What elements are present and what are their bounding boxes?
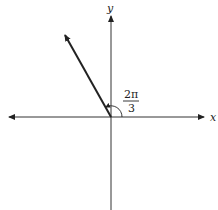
angle-diagram: x y 2π 3 xyxy=(0,0,218,210)
y-axis-label: y xyxy=(106,2,114,15)
x-axis-label: x xyxy=(210,111,217,124)
angle-numerator: 2π xyxy=(124,88,138,101)
angle-label: 2π 3 xyxy=(123,88,139,115)
angle-denominator: 3 xyxy=(128,102,135,115)
terminal-side-vector xyxy=(65,35,111,117)
